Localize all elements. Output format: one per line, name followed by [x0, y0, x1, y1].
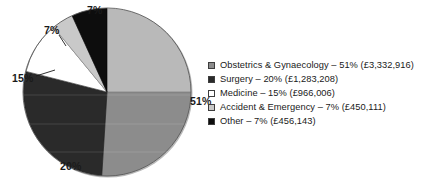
legend-item-medicine: Medicine – 15% (£966,006)	[208, 86, 430, 100]
pie-label-surgery: 20%	[60, 160, 81, 172]
pie-chart-figure: 7% 7% 15% 20% 51% Obstetrics & Gynaecolo…	[0, 0, 431, 184]
legend-item-other: Other – 7% (£456,143)	[208, 114, 430, 128]
pie-plot-area: 7% 7% 15% 20% 51%	[0, 0, 215, 184]
pie-svg	[0, 0, 215, 184]
legend-label-obstetrics-gynaecology: Obstetrics & Gynaecology – 51% (£3,332,9…	[220, 58, 414, 72]
chart-legend: Obstetrics & Gynaecology – 51% (£3,332,9…	[208, 58, 430, 128]
legend-item-obstetrics-gynaecology: Obstetrics & Gynaecology – 51% (£3,332,9…	[208, 58, 430, 72]
legend-label-other: Other – 7% (£456,143)	[220, 114, 316, 128]
legend-item-surgery: Surgery – 20% (£1,283,208)	[208, 72, 430, 86]
legend-label-medicine: Medicine – 15% (£966,006)	[220, 86, 335, 100]
legend-swatch-icon-accident-emergency	[208, 104, 215, 111]
legend-item-accident-emergency: Accident & Emergency – 7% (£450,111)	[208, 100, 430, 114]
legend-label-surgery: Surgery – 20% (£1,283,208)	[220, 72, 338, 86]
pie-label-medicine: 15%	[12, 72, 33, 84]
legend-label-accident-emergency: Accident & Emergency – 7% (£450,111)	[220, 100, 386, 114]
legend-swatch-icon-medicine	[208, 90, 215, 97]
legend-swatch-icon-obstetrics-gynaecology	[208, 62, 215, 69]
pie-label-accident-emergency: 7%	[44, 24, 59, 36]
legend-swatch-icon-surgery	[208, 76, 215, 83]
pie-label-other: 7%	[87, 4, 102, 16]
legend-swatch-icon-other	[208, 118, 215, 125]
